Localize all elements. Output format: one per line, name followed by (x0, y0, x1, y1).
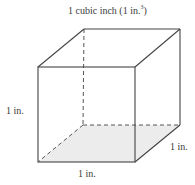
cube-base-face (38, 125, 180, 162)
cube-diagram (0, 0, 195, 185)
diagram-title: 1 cubic inch (1 in.3) (68, 5, 147, 16)
title-close-paren: ) (143, 5, 146, 16)
title-text: 1 cubic inch (1 in. (68, 5, 140, 16)
width-label: 1 in. (78, 168, 96, 179)
height-label: 1 in. (6, 105, 24, 116)
depth-label: 1 in. (170, 141, 188, 152)
